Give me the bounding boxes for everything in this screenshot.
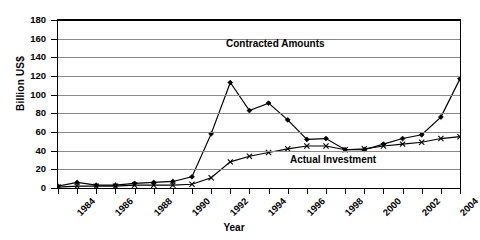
y-axis-tick-label: 40 (0, 146, 46, 156)
gridline (58, 95, 460, 96)
data-point-marker (400, 136, 405, 141)
x-axis-tick-mark (288, 189, 289, 194)
x-axis-tick-mark (115, 189, 116, 194)
x-axis-tick-mark (249, 189, 250, 194)
x-axis-tick-label: 1984 (75, 196, 97, 218)
series-line-actual-investment (58, 137, 460, 187)
gridline (58, 169, 460, 170)
y-axis-tick-label: 140 (0, 52, 46, 62)
x-axis-tick-label: 2004 (458, 196, 480, 218)
gridline (58, 151, 460, 152)
x-axis-tick-mark (154, 189, 155, 194)
y-axis-tick-label: 120 (0, 71, 46, 81)
x-axis-tick-mark (77, 189, 78, 194)
data-point-marker (324, 136, 329, 141)
y-axis-tick-labels: 020406080100120140160180 (0, 0, 57, 240)
gridline (58, 57, 460, 58)
x-axis-tick-mark (58, 189, 59, 194)
x-axis-tick-mark (345, 189, 346, 194)
x-axis-tick-label: 1986 (113, 196, 135, 218)
gridline (58, 20, 460, 21)
y-axis-tick-label: 0 (0, 183, 46, 193)
y-axis-tick-label: 60 (0, 127, 46, 137)
x-axis-tick-mark (269, 189, 270, 194)
x-axis-tick-mark (422, 189, 423, 194)
data-point-marker (190, 174, 195, 179)
x-axis-tick-label: 1996 (305, 196, 327, 218)
x-axis-tick-mark (211, 189, 212, 194)
x-axis-tick-mark (383, 189, 384, 194)
x-axis-tick-mark (326, 189, 327, 194)
gridline (58, 76, 460, 77)
x-axis-tick-label: 1992 (228, 196, 250, 218)
x-axis-tick-label: 1990 (190, 196, 212, 218)
x-axis-title: Year (0, 222, 468, 233)
x-axis-tick-mark (96, 189, 97, 194)
y-axis-tick-label: 20 (0, 164, 46, 174)
x-axis-tick-label: 1998 (343, 196, 365, 218)
x-axis-tick-mark (403, 189, 404, 194)
gridline (58, 132, 460, 133)
y-axis-tick-label: 160 (0, 34, 46, 44)
series-label-actual-investment: Actual Investment (290, 154, 376, 165)
y-axis-tick-label: 100 (0, 90, 46, 100)
data-point-marker (458, 76, 460, 81)
y-axis-tick-label: 180 (0, 15, 46, 25)
x-axis-tick-mark (192, 189, 193, 194)
x-axis-tick-label: 2002 (420, 196, 442, 218)
x-axis-tick-mark (441, 189, 442, 194)
x-axis-tick-mark (135, 189, 136, 194)
x-axis-tick-mark (173, 189, 174, 194)
y-axis-tick-label: 80 (0, 108, 46, 118)
x-axis-tick-label: 1988 (152, 196, 174, 218)
x-axis-tick-mark (307, 189, 308, 194)
x-axis-tick-mark (364, 189, 365, 194)
series-label-contracted-amounts: Contracted Amounts (226, 38, 325, 49)
x-axis-tick-label: 1994 (267, 196, 289, 218)
x-axis-tick-mark (460, 189, 461, 194)
gridline (58, 113, 460, 114)
x-axis-tick-mark (230, 189, 231, 194)
x-axis-tick-label: 2000 (381, 196, 403, 218)
